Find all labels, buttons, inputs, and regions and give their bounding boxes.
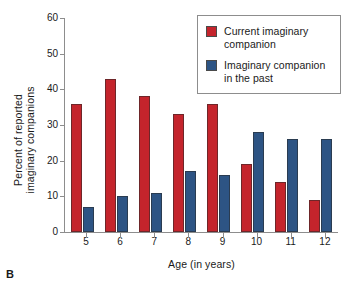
- y-axis-tick: [60, 196, 65, 197]
- bar-current-imaginary-companion-age-12: [309, 200, 320, 232]
- bar-imaginary-companion-in-the-past-age-7: [151, 193, 162, 232]
- bar-imaginary-companion-in-the-past-age-12: [321, 139, 332, 232]
- y-axis-tick: [60, 18, 65, 19]
- y-tick-label: 40: [32, 83, 58, 94]
- x-axis-tick: [325, 233, 326, 238]
- y-axis-title: Percent of reported imaginary companions: [9, 40, 39, 240]
- bar-current-imaginary-companion-age-6: [105, 79, 116, 232]
- legend-swatch-current-icon: [206, 26, 217, 37]
- figure-panel-b: Percent of reported imaginary companions…: [0, 0, 350, 290]
- x-axis-tick: [188, 233, 189, 238]
- bar-imaginary-companion-in-the-past-age-9: [219, 175, 230, 232]
- legend-swatch-past-icon: [206, 60, 217, 71]
- bar-current-imaginary-companion-age-8: [173, 114, 184, 232]
- legend-label-past: Imaginary companion in the past: [224, 59, 334, 84]
- y-axis-tick: [60, 89, 65, 90]
- panel-label-b: B: [6, 268, 14, 280]
- legend-item-past: Imaginary companion in the past: [206, 59, 334, 84]
- y-axis-title-line-1: Percent of reported: [12, 94, 25, 186]
- y-axis-tick: [60, 125, 65, 126]
- bar-imaginary-companion-in-the-past-age-5: [83, 207, 94, 232]
- x-axis-tick: [257, 233, 258, 238]
- bar-imaginary-companion-in-the-past-age-6: [117, 196, 128, 232]
- y-tick-label: 30: [32, 119, 58, 130]
- x-axis-tick: [86, 233, 87, 238]
- y-tick-label: 60: [32, 12, 58, 23]
- x-axis-tick: [120, 233, 121, 238]
- y-axis-tick: [60, 161, 65, 162]
- bar-current-imaginary-companion-age-5: [71, 104, 82, 232]
- y-tick-label: 20: [32, 155, 58, 166]
- x-axis-tick: [291, 233, 292, 238]
- chart-legend: Current imaginary companion Imaginary co…: [197, 15, 341, 94]
- bar-current-imaginary-companion-age-11: [275, 182, 286, 232]
- bar-imaginary-companion-in-the-past-age-10: [253, 132, 264, 232]
- y-axis-tick: [60, 54, 65, 55]
- bar-imaginary-companion-in-the-past-age-8: [185, 171, 196, 232]
- x-axis-title: Age (in years): [65, 258, 338, 270]
- bar-imaginary-companion-in-the-past-age-11: [287, 139, 298, 232]
- bar-current-imaginary-companion-age-10: [241, 164, 252, 232]
- legend-item-current: Current imaginary companion: [206, 25, 334, 50]
- x-axis-tick: [223, 233, 224, 238]
- bar-current-imaginary-companion-age-7: [139, 96, 150, 232]
- y-axis-title-line-2: imaginary companions: [24, 86, 37, 193]
- y-tick-label: 10: [32, 190, 58, 201]
- y-tick-label: 50: [32, 48, 58, 59]
- x-axis-line: [64, 232, 338, 233]
- x-axis-tick: [154, 233, 155, 238]
- y-axis-tick: [60, 232, 65, 233]
- bar-current-imaginary-companion-age-9: [207, 104, 218, 232]
- y-tick-label: 0: [32, 226, 58, 237]
- legend-label-current: Current imaginary companion: [224, 25, 334, 50]
